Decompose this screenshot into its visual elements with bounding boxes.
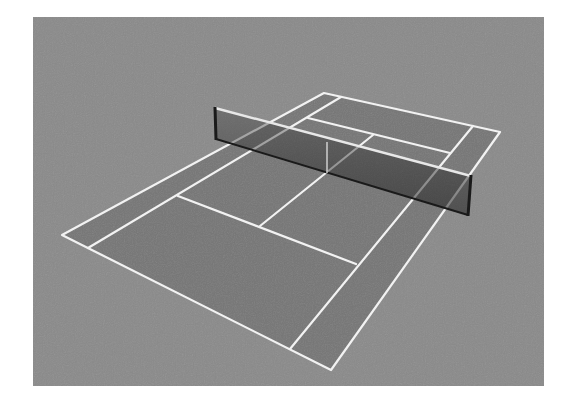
tennis-court-render: Grayscale 3D render of a tennis court wi…	[0, 0, 577, 405]
court-illustration	[0, 0, 577, 405]
net-post-left	[215, 107, 216, 140]
